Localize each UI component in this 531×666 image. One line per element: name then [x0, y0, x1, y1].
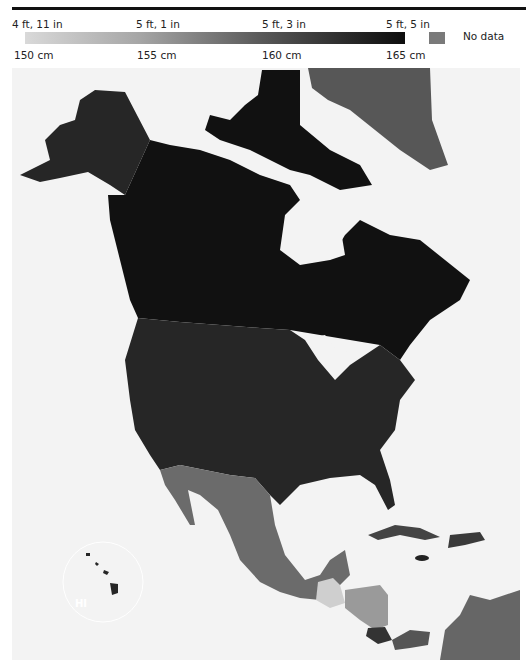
north-america-map: [12, 68, 520, 660]
hawaii-inset-label: HI: [75, 598, 87, 609]
region-costa-rica[interactable]: [366, 627, 392, 644]
legend-tick-cm: 160 cm: [262, 49, 301, 61]
legend-tick-ft: 4 ft, 11 in: [12, 18, 63, 30]
no-data-label: No data: [463, 30, 504, 42]
region-hispaniola[interactable]: [448, 532, 485, 548]
color-scale-bar: [25, 32, 405, 44]
hawaii-inset-circle: [63, 542, 143, 622]
legend-tick-ft: 5 ft, 1 in: [136, 18, 180, 30]
no-data-swatch: [429, 32, 445, 44]
hudson-bay: [285, 205, 345, 260]
legend-tick-ft: 5 ft, 5 in: [386, 18, 430, 30]
legend-tick-cm: 150 cm: [14, 49, 53, 61]
region-colombia-venezuela[interactable]: [440, 590, 520, 660]
region-honduras-nicaragua[interactable]: [345, 585, 388, 630]
map[interactable]: [12, 68, 520, 660]
legend-tick-cm: 165 cm: [386, 49, 425, 61]
region-hawaii[interactable]: [86, 553, 118, 595]
region-cuba[interactable]: [368, 525, 440, 540]
region-panama[interactable]: [392, 630, 430, 650]
region-jamaica[interactable]: [415, 555, 429, 561]
region-mexico[interactable]: [160, 465, 350, 600]
legend: 4 ft, 11 in 5 ft, 1 in 5 ft, 3 in 5 ft, …: [0, 0, 531, 68]
legend-tick-cm: 155 cm: [137, 49, 176, 61]
region-alaska[interactable]: [20, 90, 150, 195]
legend-tick-ft: 5 ft, 3 in: [262, 18, 306, 30]
